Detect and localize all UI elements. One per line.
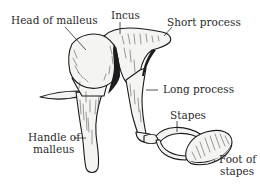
stapes-lower-crus xyxy=(156,140,188,160)
incus-long-process xyxy=(126,68,146,134)
incus xyxy=(104,28,171,142)
label-short-process: Short process xyxy=(167,16,241,28)
label-stapes: Stapes xyxy=(170,109,206,121)
label-foot-of-stapes-line1: Foot of xyxy=(219,153,257,165)
label-foot-of-stapes-line2: stapes xyxy=(220,165,254,177)
label-handle-of-malleus-line2: malleus xyxy=(33,143,74,155)
label-handle-of-malleus-line1: Handle of xyxy=(28,131,81,143)
ossicles-diagram: Head of malleus Incus Short process Long… xyxy=(0,0,260,192)
label-head-of-malleus: Head of malleus xyxy=(11,14,98,26)
label-incus: Incus xyxy=(111,9,140,21)
label-long-process: Long process xyxy=(163,83,234,95)
